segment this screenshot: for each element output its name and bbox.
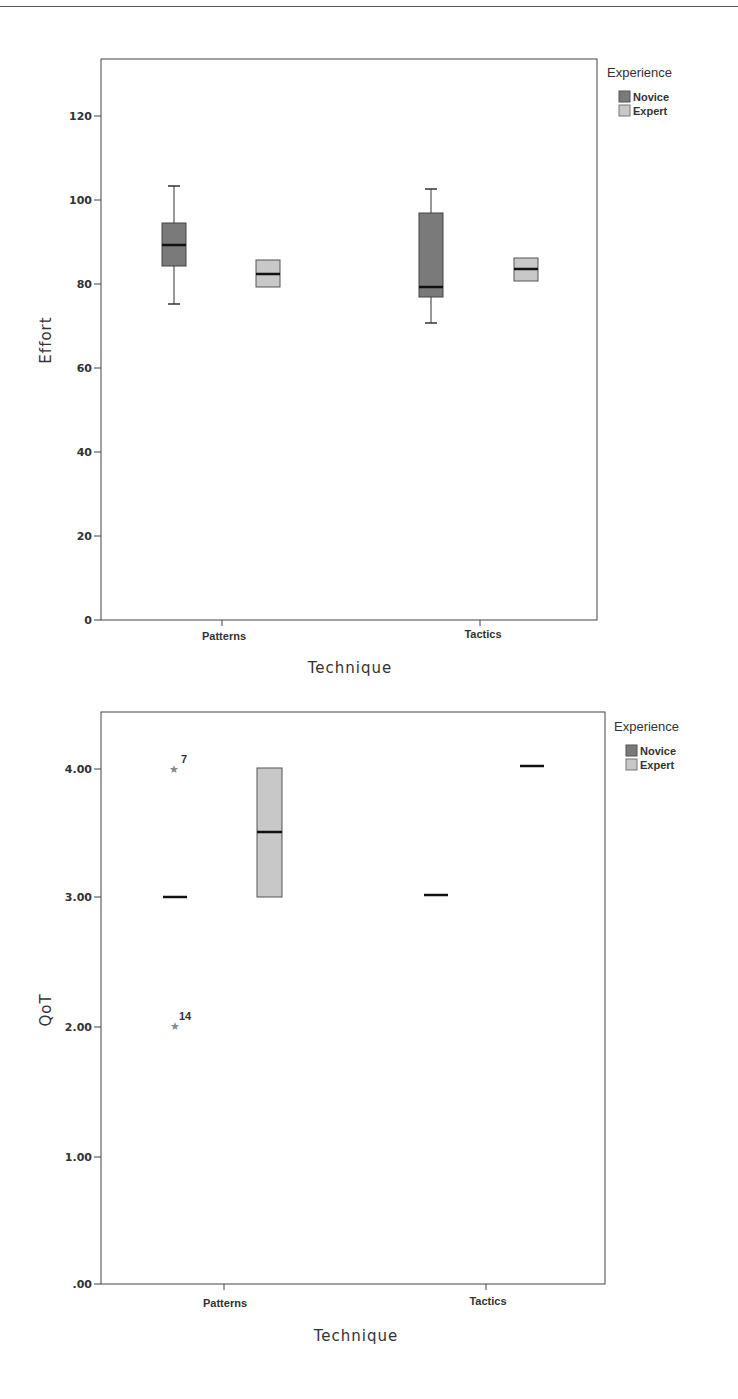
qot-boxplot: .00 1.00 2.00 3.00 4.00 QoT Patterns Tac…	[0, 700, 738, 1399]
x-tick-label-tactics: Tactics	[469, 1295, 506, 1307]
legend-label-novice: Novice	[640, 745, 676, 757]
y-tick-label: .00	[73, 1278, 93, 1291]
plot-area	[101, 712, 605, 1284]
legend: Experience Novice Expert	[614, 719, 679, 771]
y-axis	[94, 769, 101, 1284]
legend-title: Experience	[607, 65, 672, 80]
legend-swatch-novice	[619, 91, 630, 102]
y-tick-label: 1.00	[65, 1151, 92, 1164]
y-tick-label: 3.00	[65, 891, 92, 904]
y-tick-label: 120	[69, 110, 92, 123]
legend-swatch-expert	[619, 105, 630, 116]
y-tick-label: 100	[69, 194, 92, 207]
outlier-star-icon: ★	[169, 763, 179, 775]
x-tick-label-patterns: Patterns	[203, 1297, 247, 1309]
box-patterns-expert	[257, 768, 282, 897]
plot-area	[101, 59, 597, 620]
y-tick-label: 80	[77, 278, 93, 291]
legend-swatch-expert	[626, 759, 637, 770]
y-tick-label: 40	[77, 446, 93, 459]
x-axis-title: Technique	[307, 659, 393, 677]
outlier-label: 7	[181, 753, 187, 765]
y-tick-label: 2.00	[65, 1021, 92, 1034]
y-tick-label: 60	[77, 362, 93, 375]
outlier-label: 14	[179, 1010, 192, 1022]
x-tick-label-tactics: Tactics	[464, 628, 501, 640]
y-tick-label: 0	[84, 614, 92, 627]
legend: Experience Novice Expert	[607, 65, 672, 117]
legend-label-expert: Expert	[640, 759, 675, 771]
y-axis	[94, 116, 101, 620]
effort-boxplot: 0 20 40 60 80 100 120 Effort Patterns Ta…	[0, 0, 738, 700]
x-tick-label-patterns: Patterns	[202, 630, 246, 642]
y-axis-title: QoT	[37, 993, 55, 1026]
x-axis-title: Technique	[313, 1327, 399, 1345]
legend-label-expert: Expert	[633, 105, 668, 117]
legend-label-novice: Novice	[633, 91, 669, 103]
y-tick-label: 20	[77, 530, 93, 543]
y-tick-label: 4.00	[65, 763, 92, 776]
legend-swatch-novice	[626, 745, 637, 756]
box-tactics-expert	[514, 258, 538, 281]
legend-title: Experience	[614, 719, 679, 734]
box-patterns-expert	[256, 260, 280, 287]
y-axis-title: Effort	[37, 316, 55, 363]
